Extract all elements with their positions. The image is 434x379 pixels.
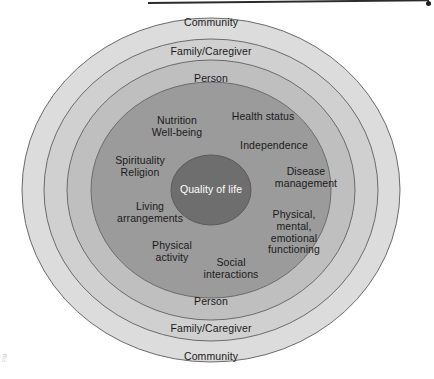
quality-of-life-core-shape: [171, 155, 251, 225]
scan-dot-artifact: [426, 1, 431, 6]
cropped-edge-caption: Fig.: [1, 300, 10, 362]
ring-shapes: [22, 18, 400, 362]
quality-of-life-diagram: Community Family/Caregiver Person Person…: [0, 0, 434, 379]
concentric-ellipses: [0, 0, 434, 379]
